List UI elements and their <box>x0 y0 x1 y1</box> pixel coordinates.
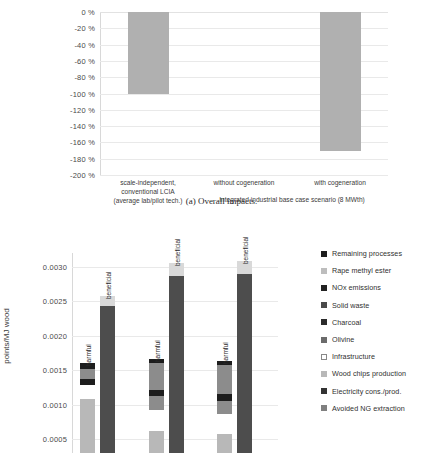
chart-a-category-label: without cogeneration <box>196 178 292 187</box>
chart-b-bar-segment <box>80 369 95 379</box>
chart-b-bar-segment <box>149 390 164 397</box>
chart-a-category-line: without cogeneration <box>196 178 292 187</box>
chart-b-bar-segment <box>149 396 164 410</box>
chart-b-bar-label: harmful <box>85 345 92 367</box>
chart-b-bar-label: beneficial <box>242 237 249 264</box>
chart-b-y-tick-label: 0.0025 <box>43 297 67 306</box>
chart-a-bar <box>128 12 169 94</box>
chart-b-bar-harmful <box>149 359 164 453</box>
chart-b-y-tick-label: 0.0020 <box>43 331 67 340</box>
chart-b-bar-beneficial <box>169 263 184 453</box>
chart-a-category-line: scale-independent, <box>100 178 196 187</box>
chart-a-y-tick-label: 0 % <box>81 8 95 17</box>
chart-a-category-line: with cogeneration <box>292 178 388 187</box>
chart-b-bar-segment <box>80 385 95 399</box>
chart-a-y-tick-label: -20 % <box>74 24 95 33</box>
chart-b-y-tick-label: 0.0015 <box>43 366 67 375</box>
chart-b-bar-segment <box>217 401 232 415</box>
legend-item: Wood chips production <box>321 365 443 382</box>
legend-item: Remaining processes <box>321 245 443 262</box>
legend-swatch-icon <box>321 285 327 291</box>
legend-item-label: Charcoal <box>332 318 361 327</box>
chart-a-y-tick-label: -80 % <box>74 73 95 82</box>
legend-item-label: NOx emissions <box>332 283 381 292</box>
chart-a-y-tick-label: -120 % <box>70 105 95 114</box>
chart-a-category-line: conventional LCIA <box>100 187 196 196</box>
chart-b-bar-harmful <box>80 363 95 453</box>
chart-b-y-tick-label: 0.0010 <box>43 400 67 409</box>
chart-a-y-tick-label: -60 % <box>74 56 95 65</box>
chart-b-y-tick-label: 0.0030 <box>43 262 67 271</box>
chart-b-bar-segment <box>80 399 95 453</box>
legend-swatch-icon <box>321 251 327 257</box>
chart-b-y-axis <box>72 253 73 453</box>
chart-b-bar-harmful <box>217 361 232 453</box>
chart-b-bar-segment <box>80 379 95 386</box>
chart-b-bar-segment <box>217 414 232 433</box>
legend-item-label: Remaining processes <box>332 249 402 258</box>
chart-b-bar-beneficial <box>100 296 115 453</box>
chart-a-plot-area: 0 %-20 %-40 %-60 %-80 %-100 %-120 %-140 … <box>100 12 388 175</box>
chart-b-y-tick-label: 0.0005 <box>43 435 67 444</box>
chart-b-bar-label: beneficial <box>105 271 112 298</box>
legend-item: Charcoal <box>321 314 443 331</box>
chart-a-gridline <box>100 159 388 160</box>
chart-b-bar-segment <box>100 306 115 453</box>
chart-a-y-tick-label: -140 % <box>70 122 95 131</box>
legend-item-label: Avoided NG extraction <box>332 404 405 413</box>
legend-item: NOx emissions <box>321 279 443 296</box>
chart-b-bar-segment <box>149 410 164 431</box>
chart-a-gridline <box>100 175 388 176</box>
chart-b-bar-label: beneficial <box>174 239 181 266</box>
legend-swatch-icon <box>321 319 327 325</box>
chart-b-legend: Remaining processesRape methyl esterNOx … <box>321 245 443 417</box>
legend-swatch-icon <box>321 354 327 360</box>
legend-item-label: Solid waste <box>332 301 369 310</box>
legend-swatch-icon <box>321 337 327 343</box>
contribution-analysis-chart: points/MJ wood 0.00300.00250.00200.00150… <box>0 228 443 432</box>
chart-a-y-tick-label: -200 % <box>70 171 95 180</box>
legend-item: Olivine <box>321 331 443 348</box>
legend-item-label: Infrastructure <box>332 352 375 361</box>
legend-item: Infrastructure <box>321 348 443 365</box>
chart-b-bar-segment <box>217 434 232 453</box>
chart-b-bar-segment <box>217 394 232 401</box>
legend-item: Electricity cons./prod. <box>321 383 443 400</box>
chart-a-y-tick-label: -100 % <box>70 89 95 98</box>
chart-b-bar-segment <box>149 431 164 453</box>
chart-a-category-label: with cogeneration <box>292 178 388 187</box>
legend-swatch-icon <box>321 371 327 377</box>
chart-a-y-tick-label: -40 % <box>74 40 95 49</box>
legend-item: Avoided NG extraction <box>321 400 443 417</box>
chart-b-bar-label: harmful <box>154 341 161 363</box>
legend-swatch-icon <box>321 268 327 274</box>
legend-swatch-icon <box>321 302 327 308</box>
chart-b-bar-segment <box>237 274 252 453</box>
legend-item-label: Rape methyl ester <box>332 266 391 275</box>
chart-b-plot-area: 0.00300.00250.00200.00150.00100.0005 har… <box>72 253 278 453</box>
chart-a-bar <box>320 12 361 151</box>
figure-caption-a: (a) Overall impacts. <box>0 196 443 206</box>
legend-swatch-icon <box>321 388 327 394</box>
legend-item-label: Electricity cons./prod. <box>332 387 401 396</box>
legend-swatch-icon <box>321 405 327 411</box>
chart-b-bar-segment <box>217 365 232 394</box>
chart-b-bar-segment <box>169 276 184 453</box>
legend-item-label: Wood chips production <box>332 369 406 378</box>
chart-b-y-axis-label: points/MJ wood <box>2 308 11 364</box>
chart-b-bar-segment <box>149 363 164 389</box>
chart-b-bar-beneficial <box>237 261 252 453</box>
legend-item: Rape methyl ester <box>321 262 443 279</box>
chart-a-y-tick-label: -180 % <box>70 154 95 163</box>
chart-a-y-tick-label: -160 % <box>70 138 95 147</box>
legend-item: Solid waste <box>321 297 443 314</box>
chart-b-bar-label: harmful <box>222 343 229 365</box>
overall-impacts-chart: 0 %-20 %-40 %-60 %-80 %-100 %-120 %-140 … <box>0 0 443 215</box>
legend-item-label: Olivine <box>332 335 354 344</box>
